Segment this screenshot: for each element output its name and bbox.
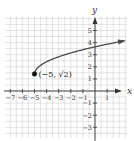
y-axis-label: y xyxy=(91,5,98,15)
x-tick-label: 1 xyxy=(105,94,109,102)
x-axis-label: x xyxy=(127,86,132,96)
x-tick-label: −6 xyxy=(18,94,28,102)
series-arrow-icon xyxy=(118,39,126,44)
curve-group xyxy=(35,39,127,73)
x-tick-label: −5 xyxy=(30,94,40,102)
y-axis-arrow-icon xyxy=(93,17,98,24)
function-graph: xy −7−6−5−4−3−2−1154321−1−2−3 (−5, √2) xyxy=(0,0,134,141)
y-tick-label: 3 xyxy=(88,51,92,59)
marked-points: (−5, √2) xyxy=(32,70,72,79)
x-tick-label: −2 xyxy=(66,94,76,102)
x-axis-arrow-icon xyxy=(115,89,122,94)
x-tick-label: −7 xyxy=(6,94,16,102)
y-tick-label: −3 xyxy=(82,124,92,132)
y-tick-label: −1 xyxy=(82,99,92,107)
series-line xyxy=(35,41,125,74)
y-tick-label: 1 xyxy=(88,75,92,83)
x-tick-label: −4 xyxy=(42,94,52,102)
y-tick-label: 2 xyxy=(88,63,92,71)
y-tick-label: 4 xyxy=(88,39,92,47)
y-tick-label: 5 xyxy=(88,27,92,35)
marked-point-label: (−5, √2) xyxy=(39,70,72,79)
y-tick-label: −2 xyxy=(82,112,92,120)
marked-point xyxy=(32,72,37,77)
x-tick-label: −3 xyxy=(54,94,64,102)
